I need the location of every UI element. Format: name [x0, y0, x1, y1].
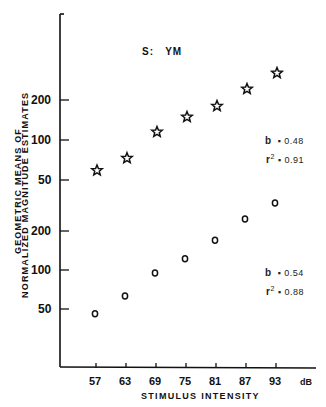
fit-r2-lower-value: 0.88: [285, 287, 305, 297]
y-axis-title-line2: NORMALIZED MAGNITUDE ESTIMATES: [20, 108, 30, 298]
star-markers: [92, 68, 282, 175]
fit-r2-upper: r2 ▪ 0.91: [266, 153, 304, 165]
fit-b-lower-value: 0.54: [284, 268, 304, 278]
fit-b-upper-value: 0.48: [284, 136, 304, 146]
x-axis-title: STIMULUS INTENSITY: [141, 391, 260, 401]
fit-b-lower: b ▪ 0.54: [265, 267, 304, 278]
subject-id: YM: [165, 46, 182, 57]
circle-marker: [212, 237, 217, 243]
x-tick-label-57: 57: [89, 375, 101, 387]
y-tick-label-lower-100: 100: [31, 263, 51, 277]
circle-marker: [242, 216, 247, 222]
x-unit-label: dB: [300, 377, 312, 387]
star-marker: [182, 111, 192, 121]
circle-marker: [92, 311, 97, 317]
x-tick-label-81: 81: [209, 375, 221, 387]
circle-marker: [152, 270, 157, 276]
fit-r2-upper-value: 0.91: [285, 155, 305, 165]
chart-canvas: [0, 0, 326, 407]
x-tick-label-75: 75: [179, 375, 191, 387]
star-marker: [122, 153, 132, 163]
circle-marker: [122, 293, 127, 299]
y-tick-label-lower-50: 50: [38, 302, 51, 316]
fit-b-upper: b ▪ 0.48: [265, 135, 304, 146]
circle-marker: [182, 256, 187, 262]
star-marker: [92, 165, 102, 175]
star-marker: [212, 101, 222, 111]
circle-marker: [272, 200, 277, 206]
y-tick-label-lower-200: 200: [31, 224, 51, 238]
x-axis-line: [60, 367, 316, 368]
y-tick-label-upper-200: 200: [31, 93, 51, 107]
subject-label: S: YM: [142, 46, 182, 57]
x-tick-label-69: 69: [149, 375, 161, 387]
star-marker: [242, 84, 252, 94]
x-tick-label-93: 93: [269, 375, 281, 387]
star-marker: [272, 68, 282, 78]
fit-r2-lower: r2 ▪ 0.88: [266, 285, 304, 297]
star-marker: [152, 126, 162, 136]
subject-prefix: S:: [142, 46, 154, 57]
y-tick-label-upper-50: 50: [38, 173, 51, 187]
x-tick-label-63: 63: [119, 375, 131, 387]
circle-markers: [92, 200, 277, 317]
y-tick-label-upper-100: 100: [31, 133, 51, 147]
x-tick-label-87: 87: [239, 375, 251, 387]
